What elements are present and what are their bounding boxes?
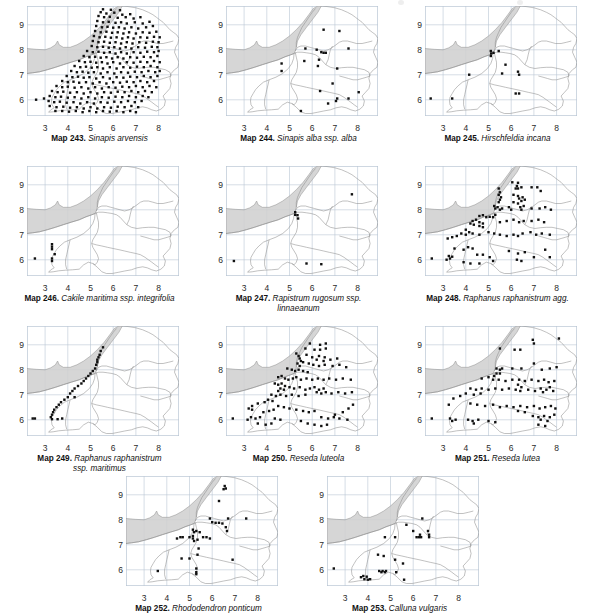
record-dot (322, 379, 324, 381)
record-dot (284, 377, 286, 379)
record-dot (279, 394, 281, 396)
record-dot (96, 107, 98, 109)
record-dot (263, 401, 265, 403)
record-dot (319, 349, 321, 351)
record-dot (70, 70, 72, 72)
record-dot (146, 37, 148, 39)
record-dot (419, 534, 421, 536)
record-dot (284, 385, 286, 387)
record-dot (132, 17, 134, 19)
map-graphic[interactable] (425, 326, 577, 436)
map-graphic[interactable] (226, 6, 378, 116)
map-caption: Map 249. Raphanus raphanistrumssp. marit… (17, 454, 182, 474)
record-dot (511, 181, 513, 183)
record-dot (61, 110, 63, 112)
record-dot (300, 379, 302, 381)
record-dot (412, 530, 414, 532)
map-panel-243[interactable]: 6789345678Map 243. Sinapis arvensis (0, 4, 199, 122)
record-dot (294, 214, 296, 216)
map-panel-245[interactable]: 6789345678Map 245. Hirschfeldia incana (398, 4, 597, 122)
map-panel-249[interactable]: 6789345678Map 249. Raphanus raphanistrum… (0, 324, 199, 442)
record-dot (517, 410, 519, 412)
x-axis-tick-label: 5 (287, 283, 292, 293)
record-dot (96, 92, 98, 94)
record-dot (334, 414, 336, 416)
record-dot (157, 50, 159, 52)
estuary-area (126, 476, 221, 544)
y-axis-tick-label: 9 (15, 180, 24, 190)
map-number: Map 249. (37, 454, 72, 463)
x-axis-tick-label: 8 (355, 443, 360, 453)
x-axis-tick-label: 6 (111, 443, 116, 453)
record-dot (120, 42, 122, 44)
record-dot (329, 359, 331, 361)
record-dot (143, 56, 145, 58)
record-dot (533, 256, 535, 258)
record-dot (100, 101, 102, 103)
map-plot-area: 6789345678Map 246. Cakile maritima ssp. … (17, 164, 182, 282)
record-dot (277, 405, 279, 407)
record-dot (159, 70, 161, 72)
record-dot (119, 47, 121, 49)
record-dot (532, 339, 534, 341)
map-graphic[interactable] (327, 476, 479, 586)
map-row-4: 6789345678Map 252. Rhododendron ponticum… (98, 474, 500, 592)
map-panel-250[interactable]: 6789345678Map 250. Reseda luteola (199, 324, 398, 442)
record-dot (68, 111, 70, 113)
map-graphic[interactable] (226, 166, 378, 276)
distribution-map-canvas (327, 476, 479, 586)
x-axis-tick-label: 4 (65, 283, 70, 293)
record-dot (546, 420, 548, 422)
map-graphic[interactable] (27, 6, 179, 116)
map-graphic[interactable] (425, 6, 577, 116)
record-dot (363, 578, 365, 580)
record-dot (519, 390, 521, 392)
map-panel-244[interactable]: 6789345678Map 244. Sinapis alba ssp. alb… (199, 4, 398, 122)
record-dot (102, 110, 104, 112)
record-dot (395, 571, 397, 573)
record-dot (504, 380, 506, 382)
map-graphic[interactable] (226, 326, 378, 436)
map-plot-area: 6789345678Map 245. Hirschfeldia incana (415, 4, 580, 122)
map-panel-252[interactable]: 6789345678Map 252. Rhododendron ponticum (98, 474, 299, 592)
record-dot (34, 417, 36, 419)
record-dot (136, 66, 138, 68)
record-dot (545, 389, 547, 391)
record-dot (100, 72, 102, 74)
record-dot (451, 97, 453, 99)
record-dot (95, 364, 97, 366)
map-panel-253[interactable]: 6789345678Map 253. Calluna vulgaris (299, 474, 500, 592)
record-dot (311, 379, 313, 381)
record-dot (342, 377, 344, 379)
map-graphic[interactable] (27, 166, 179, 276)
record-dot (231, 559, 233, 561)
map-number: Map 243. (51, 134, 86, 143)
record-dot (367, 579, 369, 581)
record-dot (521, 196, 523, 198)
distribution-map-canvas (27, 6, 179, 116)
map-graphic[interactable] (27, 326, 179, 436)
record-dot (552, 390, 554, 392)
record-dot (309, 342, 311, 344)
record-dot (469, 387, 471, 389)
map-graphic[interactable] (126, 476, 278, 586)
record-dot (95, 25, 97, 27)
record-dot (196, 539, 198, 541)
record-dot (459, 395, 461, 397)
x-axis-tick-label: 6 (310, 123, 315, 133)
map-panel-251[interactable]: 6789345678Map 251. Reseda lutea (398, 324, 597, 442)
record-dot (54, 96, 56, 98)
map-panel-246[interactable]: 6789345678Map 246. Cakile maritima ssp. … (0, 164, 199, 282)
x-axis-tick-label: 5 (187, 593, 192, 603)
record-dot (87, 375, 89, 377)
record-dot (469, 262, 471, 264)
record-dot (499, 347, 501, 349)
map-panel-248[interactable]: 6789345678Map 248. Raphanus raphanistrum… (398, 164, 597, 282)
map-panel-247[interactable]: 6789345678Map 247. Rapistrum rugosum ssp… (199, 164, 398, 282)
record-dot (547, 381, 549, 383)
record-dot (117, 17, 119, 19)
record-dot (197, 547, 199, 549)
record-dot (499, 372, 501, 374)
map-graphic[interactable] (425, 166, 577, 276)
x-axis-tick-label: 7 (333, 123, 338, 133)
